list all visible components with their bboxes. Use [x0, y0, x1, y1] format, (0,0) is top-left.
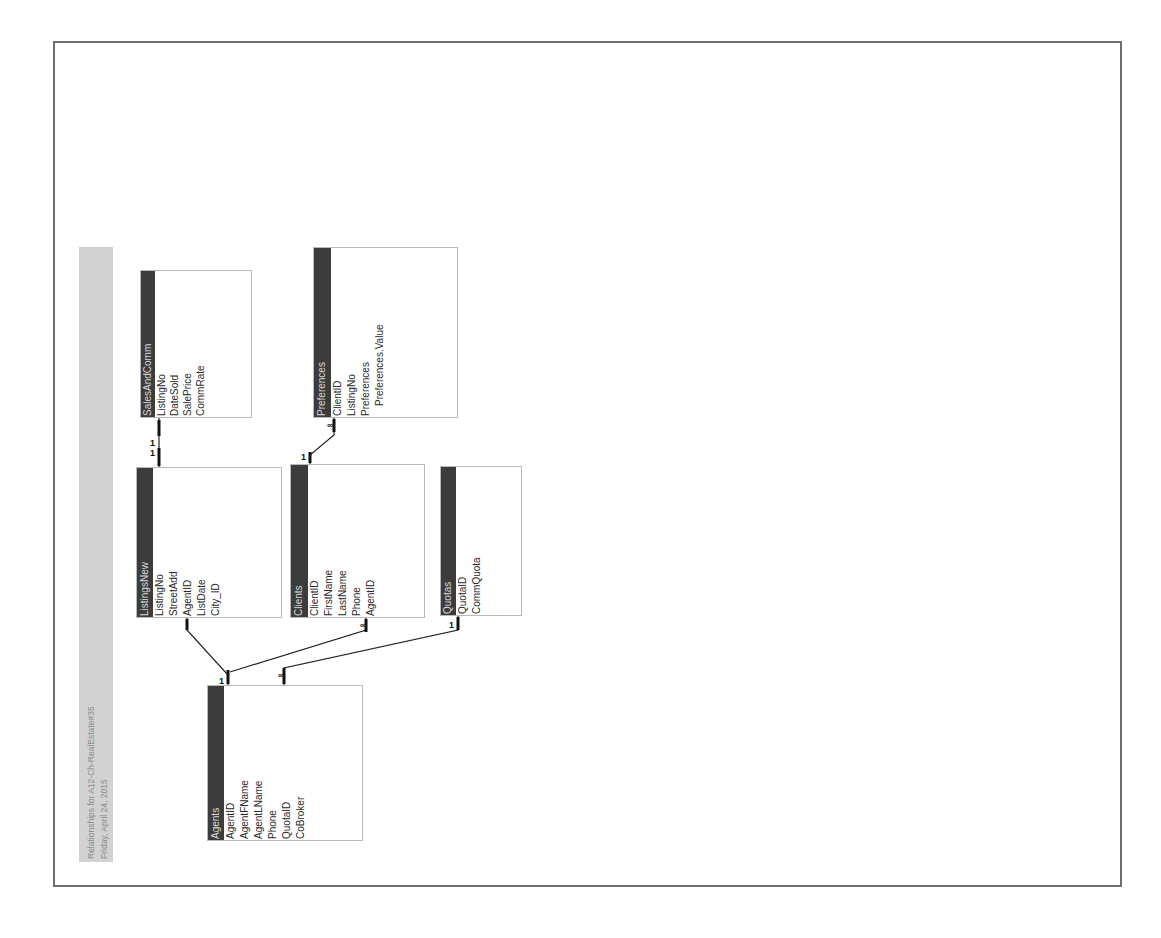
table-name: Quotas	[442, 582, 453, 614]
card-agents-many: ∞	[278, 670, 284, 680]
table-quotas[interactable]: Quotas QuotaID CommQuota	[440, 466, 522, 616]
field[interactable]: ListingNo	[154, 574, 165, 616]
field[interactable]: City_ID	[210, 583, 221, 616]
table-title-bar[interactable]: ListingsNew	[137, 468, 153, 617]
field[interactable]: Preferences	[360, 362, 371, 416]
table-preferences[interactable]: Preferences ClientID ListingNo Preferenc…	[313, 247, 458, 418]
field[interactable]: CoBroker	[295, 797, 306, 839]
table-clients[interactable]: Clients ClientID FirstName LastName Phon…	[290, 464, 425, 618]
table-name: SalesAndComm	[142, 344, 153, 416]
field[interactable]: CommRate	[195, 365, 206, 416]
field[interactable]: AgentID	[365, 580, 376, 616]
rel-agents-listings	[187, 618, 228, 685]
field[interactable]: QuotaID	[457, 577, 468, 614]
field[interactable]: QuotaID	[281, 802, 292, 839]
field[interactable]: Phone	[351, 587, 362, 616]
table-name: Agents	[210, 808, 221, 839]
field[interactable]: StreetAdd	[168, 572, 179, 616]
table-salesandcomm[interactable]: SalesAndComm ListingNo DateSold SalePric…	[140, 270, 252, 418]
field[interactable]: LastName	[337, 570, 348, 616]
field[interactable]: ListingNo	[346, 374, 357, 416]
card-clients-1: 1	[301, 452, 306, 462]
card-clients-many: ∞	[360, 620, 366, 630]
field[interactable]: Preferences.Value	[374, 324, 385, 406]
field[interactable]: FirstName	[323, 570, 334, 616]
table-name: Preferences	[316, 362, 327, 416]
field[interactable]: SalePrice	[182, 373, 193, 416]
field[interactable]: DateSold	[169, 375, 180, 416]
table-title-bar[interactable]: Preferences	[314, 248, 331, 417]
table-name: ListingsNew	[139, 562, 150, 616]
field[interactable]: ClientID	[309, 580, 320, 616]
field[interactable]: ListDate	[196, 579, 207, 616]
table-title-bar[interactable]: Quotas	[441, 467, 456, 615]
field[interactable]: AgentFName	[239, 780, 250, 839]
rel-agents-clients	[230, 618, 366, 672]
table-title-bar[interactable]: SalesAndComm	[141, 271, 155, 417]
card-quotas-1: 1	[449, 620, 454, 630]
field[interactable]: AgentID	[182, 580, 193, 616]
table-title-bar[interactable]: Clients	[291, 465, 308, 617]
table-name: Clients	[293, 585, 304, 616]
field[interactable]: ListingNo	[156, 374, 167, 416]
table-agents[interactable]: Agents AgentID AgentFName AgentLName Pho…	[207, 685, 363, 841]
card-preferences-many: ∞	[327, 420, 333, 430]
field[interactable]: AgentID	[225, 803, 236, 839]
field[interactable]: Phone	[267, 810, 278, 839]
card-listings-sales-1a: 1	[150, 438, 155, 448]
rel-quotas-agents	[284, 616, 458, 685]
field[interactable]: AgentLName	[253, 781, 264, 839]
field[interactable]: CommQuota	[471, 557, 482, 614]
card-listings-sales-1b: 1	[150, 448, 155, 458]
table-title-bar[interactable]: Agents	[208, 686, 224, 840]
field[interactable]: ClientID	[332, 380, 343, 416]
table-listingsnew[interactable]: ListingsNew ListingNo StreetAdd AgentID …	[136, 467, 282, 618]
